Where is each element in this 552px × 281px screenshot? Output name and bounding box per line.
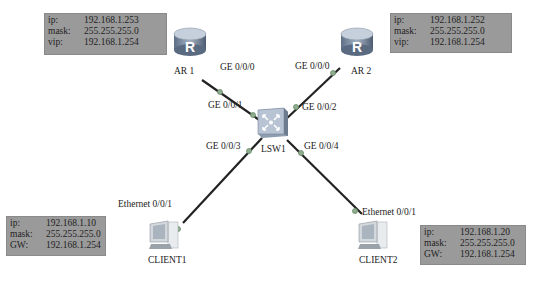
port-label-lsw-ge004: GE 0/0/4 xyxy=(304,141,339,151)
port-label-client2-eth: Ethernet 0/0/1 xyxy=(362,207,416,217)
ar1-label: AR 1 xyxy=(174,66,194,76)
lsw1-label: LSW1 xyxy=(261,144,286,154)
port-label-ar1-ge000: GE 0/0/0 xyxy=(220,62,255,72)
router-icon-ar2[interactable]: R xyxy=(339,26,375,58)
ar2-label: AR 2 xyxy=(351,66,371,76)
svg-text:R: R xyxy=(352,39,362,55)
port-label-lsw-ge001: GE 0/0/1 xyxy=(208,100,243,110)
pc-icon-client1[interactable] xyxy=(148,218,180,252)
port-dot-lsw-ge002 xyxy=(294,105,299,110)
client1-info-box: ip:192.168.1.10 mask:255.255.255.0 GW:19… xyxy=(6,216,106,256)
link-lsw1-client2 xyxy=(287,140,362,214)
client1-label: CLIENT1 xyxy=(148,255,187,265)
svg-text:R: R xyxy=(185,39,195,55)
switch-icon-lsw1[interactable] xyxy=(254,106,290,140)
ar1-info-box: ip:192.168.1.253 mask:255.255.255.0 vip:… xyxy=(44,13,167,55)
ar2-info-box: ip:192.168.1.252 mask:255.255.255.0 vip:… xyxy=(390,13,512,53)
pc-icon-client2[interactable] xyxy=(357,218,389,252)
port-dot-lsw-ge004 xyxy=(299,151,304,156)
port-dot-ar1-ge000 xyxy=(218,90,223,95)
port-dot-ar2-ge000 xyxy=(331,71,336,76)
client2-label: CLIENT2 xyxy=(359,255,398,265)
port-dot-client2-eth xyxy=(353,209,358,214)
port-label-client1-eth: Ethernet 0/0/1 xyxy=(118,199,172,209)
port-label-lsw-ge002: GE 0/0/2 xyxy=(302,102,337,112)
port-label-lsw-ge003: GE 0/0/3 xyxy=(206,141,241,151)
port-dot-lsw-ge003 xyxy=(247,149,252,154)
router-icon-ar1[interactable]: R xyxy=(172,26,208,58)
link-ar2-lsw1 xyxy=(284,68,340,121)
client2-info-box: ip:192.168.1.20 mask:255.255.255.0 GW:19… xyxy=(420,225,526,265)
port-label-ar2-ge000: GE 0/0/0 xyxy=(295,61,330,71)
